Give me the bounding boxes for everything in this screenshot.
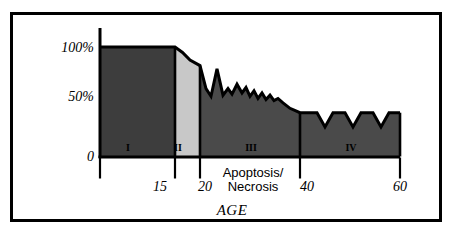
chart-canvas: 100% 50% 0 15 20 40 60 I II III IV Apopt… xyxy=(0,0,460,231)
annotation-line-2: Necrosis xyxy=(228,179,279,194)
x-tick-label-60: 60 xyxy=(393,179,407,194)
x-tick-label-20: 20 xyxy=(198,179,212,194)
annotation-line-1: Apoptosis/ xyxy=(223,165,284,180)
x-axis-labels-group: 15 20 40 60 xyxy=(153,179,407,194)
y-axis-labels-group: 100% 50% 0 xyxy=(61,40,94,164)
x-axis-title: AGE xyxy=(216,202,248,218)
apoptosis-necrosis-annotation: Apoptosis/ Necrosis xyxy=(223,165,284,194)
y-tick-label-100: 100% xyxy=(61,40,94,55)
region-label-ii: II xyxy=(174,142,182,153)
region-label-iv: IV xyxy=(345,142,357,153)
area-series-group xyxy=(100,47,400,157)
x-tick-label-15: 15 xyxy=(153,179,167,194)
y-tick-label-0: 0 xyxy=(87,149,94,164)
figure-root: 100% 50% 0 15 20 40 60 I II III IV Apopt… xyxy=(0,0,460,231)
area-region-i xyxy=(100,47,175,157)
x-tick-label-40: 40 xyxy=(300,179,314,194)
region-label-i: I xyxy=(126,142,130,153)
region-label-iii: III xyxy=(245,142,257,153)
y-tick-label-50: 50% xyxy=(68,89,94,104)
